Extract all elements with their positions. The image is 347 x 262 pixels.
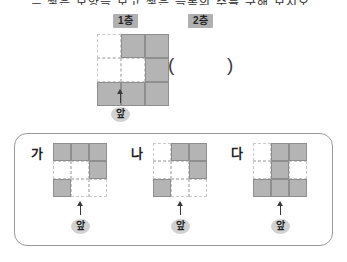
option-na-cell-r3c1	[153, 179, 171, 197]
option-grid-ga	[53, 143, 107, 197]
option-label-na: 나	[131, 143, 143, 162]
option-na-cell-r1c2	[171, 143, 189, 161]
up-arrow-icon	[280, 202, 281, 215]
up-arrow-icon	[80, 202, 81, 215]
option-ga-cell-r3c1	[53, 179, 71, 197]
option-da-cell-r3c3	[289, 179, 307, 197]
option-na-cell-r2c2	[171, 161, 189, 179]
front-marker-na: 앞	[163, 202, 197, 234]
option-ga-cell-r3c2	[71, 179, 89, 197]
option-da-cell-r1c3	[289, 143, 307, 161]
option-na-cell-r3c2	[171, 179, 189, 197]
option-ga-cell-r2c3	[89, 161, 107, 179]
option-da-cell-r2c2	[271, 161, 289, 179]
floor-label-first: 1층	[113, 14, 138, 28]
front-label-main: 앞	[111, 107, 130, 122]
option-ga-cell-r3c3	[89, 179, 107, 197]
option-grid-da	[253, 143, 307, 197]
option-ga-cell-r2c1	[53, 161, 71, 179]
main-plan-cell-r2c2	[121, 58, 145, 82]
option-na-cell-r1c1	[153, 143, 171, 161]
option-da-cell-r3c2	[271, 179, 289, 197]
option-da-cell-r2c3	[289, 161, 307, 179]
option-label-da: 다	[231, 143, 243, 162]
floor-label-second: 2층	[188, 14, 213, 28]
option-na-cell-r2c1	[153, 161, 171, 179]
up-arrow-icon	[120, 90, 121, 103]
option-da-cell-r1c1	[253, 143, 271, 161]
front-marker-da: 앞	[263, 202, 297, 234]
main-plan-cell-r3c3	[145, 82, 169, 106]
main-plan-cell-r1c1	[97, 34, 121, 58]
front-marker-main: 앞	[103, 90, 137, 122]
option-ga-cell-r1c3	[89, 143, 107, 161]
option-na-cell-r1c3	[189, 143, 207, 161]
option-da-cell-r3c1	[253, 179, 271, 197]
cut-off-header-text: ─ 쌓은 모양을 보고 쌓은 블록의 수를 구해 보시오.	[0, 0, 347, 5]
main-plan-cell-r1c2	[121, 34, 145, 58]
front-label-ga: 앞	[71, 219, 90, 234]
option-grid-na	[153, 143, 207, 197]
option-na-cell-r2c3	[189, 161, 207, 179]
front-marker-ga: 앞	[63, 202, 97, 234]
front-label-na: 앞	[171, 219, 190, 234]
option-da-cell-r2c1	[253, 161, 271, 179]
main-plan-cell-r2c1	[97, 58, 121, 82]
main-plan-cell-r1c3	[145, 34, 169, 58]
option-na-cell-r3c3	[189, 179, 207, 197]
options-box: 가앞 나앞 다앞	[14, 133, 333, 246]
answer-blank[interactable]: ( )	[168, 54, 233, 76]
option-ga-cell-r1c1	[53, 143, 71, 161]
up-arrow-icon	[180, 202, 181, 215]
option-ga-cell-r2c2	[71, 161, 89, 179]
option-da-cell-r1c2	[271, 143, 289, 161]
option-label-ga: 가	[31, 143, 43, 162]
main-plan-cell-r2c3	[145, 58, 169, 82]
option-ga-cell-r1c2	[71, 143, 89, 161]
front-label-da: 앞	[271, 219, 290, 234]
